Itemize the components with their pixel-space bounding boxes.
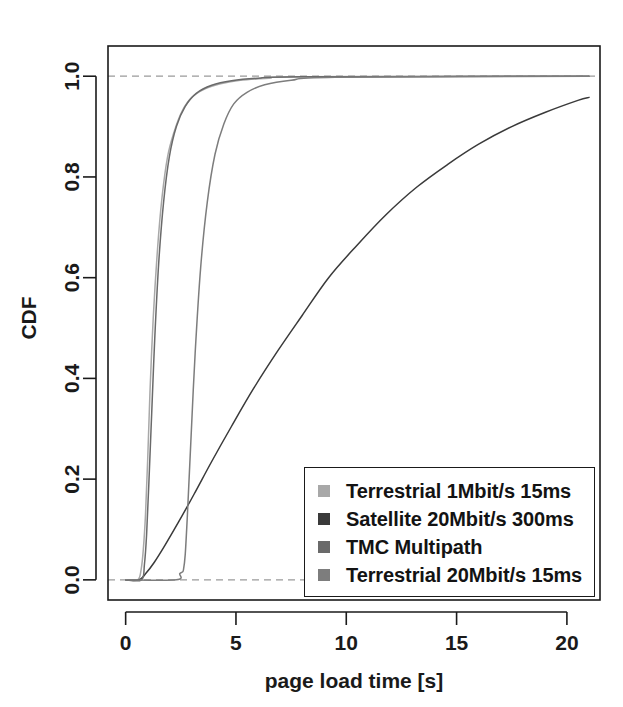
plot-canvas: 051015200.00.20.40.60.81.0 page load tim… <box>0 0 623 707</box>
x-tick-label: 20 <box>555 631 578 654</box>
x-tick-label: 10 <box>335 631 358 654</box>
legend-item: Satellite 20Mbit/s 300ms <box>305 505 594 533</box>
y-axis-title: CDF <box>17 296 40 339</box>
cdf-chart-figure: 051015200.00.20.40.60.81.0 page load tim… <box>0 0 623 707</box>
x-tick-label: 0 <box>120 631 132 654</box>
y-tick-label: 0.0 <box>61 565 84 594</box>
legend-color-swatch <box>318 569 330 581</box>
legend-item-label: Terrestrial 1Mbit/s 15ms <box>346 480 571 503</box>
legend-item: Terrestrial 20Mbit/s 15ms <box>305 561 594 589</box>
legend-item-label: Satellite 20Mbit/s 300ms <box>346 508 574 531</box>
legend-item: Terrestrial 1Mbit/s 15ms <box>305 477 594 505</box>
legend-color-swatch <box>318 485 330 497</box>
legend-item: TMC Multipath <box>305 533 594 561</box>
y-tick-label: 0.2 <box>61 465 84 494</box>
y-tick-label: 0.8 <box>61 162 84 192</box>
x-axis-title: page load time [s] <box>265 669 444 692</box>
y-tick-label: 1.0 <box>61 62 84 91</box>
x-tick-label: 5 <box>230 631 242 654</box>
legend-item-label: Terrestrial 20Mbit/s 15ms <box>346 564 582 587</box>
chart-legend: Terrestrial 1Mbit/s 15ms Satellite 20Mbi… <box>304 467 595 597</box>
legend-color-swatch <box>318 541 330 553</box>
x-tick-label: 15 <box>445 631 469 654</box>
legend-color-swatch <box>318 513 330 525</box>
legend-item-label: TMC Multipath <box>346 536 482 559</box>
y-tick-label: 0.6 <box>61 263 84 292</box>
y-tick-label: 0.4 <box>61 363 84 393</box>
